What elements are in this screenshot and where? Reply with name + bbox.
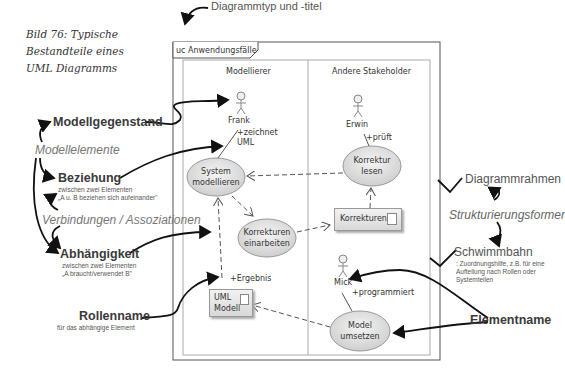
annotation-diagrammtyp: Diagrammtyp und -titel [211, 0, 322, 12]
uc-line: Model [340, 320, 379, 331]
frame-title: uc Anwendungsfälle [176, 46, 257, 55]
arrow-struktur-down [497, 222, 500, 246]
desc-line: „A braucht/verwendet B" [62, 270, 136, 278]
uc-line: Korrekturen [244, 227, 291, 238]
uc-line: lesen [353, 166, 390, 177]
figure-caption: Bild 76: Typische Bestandteile eines UML… [26, 26, 124, 77]
annotation-schwimmbahn: Schwimmbahn [454, 245, 533, 259]
actor-erwin-role: +prüft [366, 133, 392, 142]
role-line-2: UML [237, 138, 278, 148]
actor-frank-name[interactable]: Frank [228, 116, 250, 125]
annotation-beziehung-desc: zwischen zwei Elementen „A u. B beziehen… [58, 186, 158, 202]
annotation-modellelemente: Modellelemente [35, 143, 120, 157]
annotation-beziehung: Beziehung [58, 171, 121, 185]
desc-line: zwischen zwei Elementen [62, 262, 136, 270]
artifact-korrekturen[interactable]: Korrekturen [334, 208, 402, 231]
annotation-rollenname-desc: für das abhängige Element [57, 324, 135, 332]
annotation-verbindungen: Verbindungen / Assoziationen [42, 213, 201, 227]
annotation-schwimmbahn-desc: : Zuordnungshilfe, z.B. für eine Aufteil… [456, 260, 545, 284]
uc-line: System [192, 166, 239, 177]
uc-line: Korrektur [353, 155, 390, 166]
arrow-modellelemente-down [40, 158, 54, 178]
swimlane-modellierer: Modellierer [226, 67, 271, 76]
actor-mick-role: +programmiert [352, 288, 414, 297]
caption-line-2: Bestandteile eines [26, 43, 124, 60]
annotation-elementname: Elementname [470, 313, 551, 327]
artifact-role-ergebnis: +Ergebnis [230, 274, 271, 283]
swimlane-stakeholder: Andere Stakeholder [332, 67, 411, 76]
usecase-model-umsetzen-label: Modelumsetzen [331, 313, 389, 349]
artifact-label: Korrekturen [340, 214, 387, 223]
annotation-abhaengigkeit-desc: zwischen zwei Elementen „A braucht/verwe… [62, 262, 136, 278]
annotation-strukturierungsformer: Strukturierungsformer [449, 208, 565, 222]
usecase-korrektur-lesen-label: Korrekturlesen [344, 148, 400, 184]
arrow-modellelemente-up [40, 122, 50, 142]
usecase-einarbeiten-label: Korrektureneinarbeiten [239, 221, 295, 255]
document-icon [387, 213, 397, 225]
uc-line: einarbeiten [244, 238, 291, 249]
caption-line-1: Bild 76: Typische [26, 26, 124, 43]
artifact-label: UML Modell [214, 292, 240, 314]
artifact-line: UML [214, 292, 240, 303]
artifact-line: Modell [214, 303, 240, 314]
desc-line: zwischen zwei Elementen [58, 186, 158, 194]
desc-line: Aufteilung nach Rollen oder [456, 268, 545, 276]
actor-frank-role: +zeichnet UML [237, 128, 278, 148]
desc-line: Systemteilen [456, 276, 545, 284]
document-icon [240, 294, 249, 305]
uc-line: umsetzen [340, 331, 379, 342]
arrow-struktur-up [494, 188, 500, 200]
arrow-modellelemente-long [34, 158, 58, 253]
arrow-verbindungen-down [52, 226, 60, 248]
annotation-diagrammrahmen: Diagrammrahmen [465, 172, 561, 186]
usecase-system-modellieren-label: Systemmodellieren [188, 160, 244, 194]
desc-line: „A u. B beziehen sich aufeinander" [58, 194, 158, 202]
annotation-modellgegenstand: Modellgegenstand [53, 115, 163, 129]
artifact-uml-modell[interactable]: UML Modell [209, 289, 253, 317]
desc-line: : Zuordnungshilfe, z.B. für eine [456, 260, 545, 268]
uc-line: modellieren [192, 177, 239, 188]
caption-line-3: UML Diagramms [26, 60, 124, 77]
arrow-diagrammrahmen [438, 178, 462, 192]
role-line-1: +zeichnet [237, 128, 278, 138]
arrow-titel [185, 8, 208, 24]
actor-mick-name[interactable]: Mick [334, 278, 352, 287]
arrow-verbindungen-up [50, 194, 58, 210]
annotation-rollenname: Rollenname [79, 309, 150, 323]
actor-erwin-name[interactable]: Erwin [346, 120, 368, 129]
annotation-abhaengigkeit: Abhängigkeit [60, 247, 139, 261]
